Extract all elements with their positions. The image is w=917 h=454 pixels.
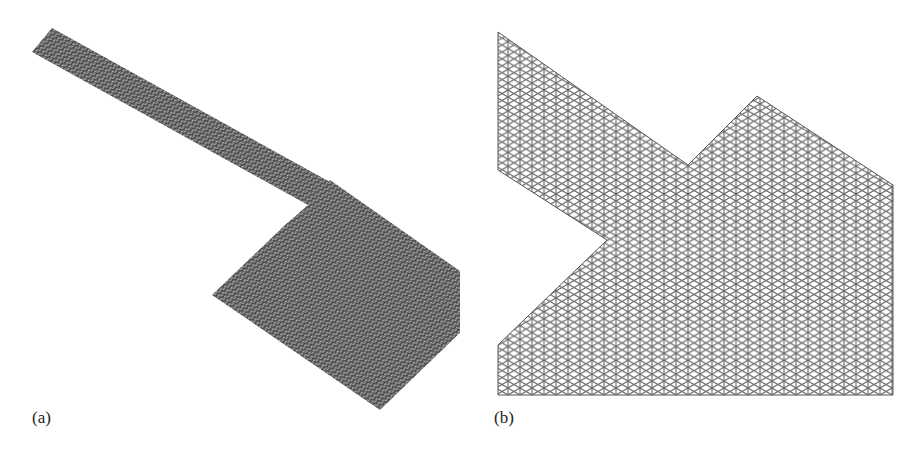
- patch-mesh: [212, 180, 460, 410]
- panel-label-a: (a): [32, 408, 51, 428]
- coarse-mesh: [460, 0, 917, 454]
- panel-label-b: (b): [494, 408, 514, 428]
- panel-b: (b): [460, 0, 917, 454]
- feed-line-mesh: [32, 28, 330, 205]
- mesh-zoom-figure: [460, 0, 917, 454]
- mesh-overview-figure: [0, 0, 460, 454]
- panel-a: (a): [0, 0, 460, 454]
